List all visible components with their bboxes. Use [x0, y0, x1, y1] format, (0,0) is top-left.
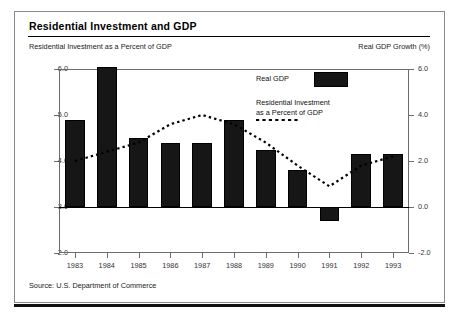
- y-tick-label-right: -2.0: [418, 248, 431, 257]
- x-tick: [266, 253, 267, 258]
- x-tick: [393, 253, 394, 258]
- x-tick-label: 1986: [162, 261, 178, 270]
- x-tick-label: 1990: [290, 261, 306, 270]
- y-tick-right: [409, 253, 414, 254]
- x-tick: [329, 253, 330, 258]
- x-tick-label: 1988: [226, 261, 242, 270]
- x-tick: [139, 253, 140, 258]
- y-tick-right: [409, 161, 414, 162]
- right-axis-label: Real GDP Growth (%): [358, 42, 430, 51]
- bar: [65, 120, 85, 207]
- bar: [129, 138, 149, 207]
- plot-area: [59, 69, 409, 253]
- x-tick-label: 1987: [194, 261, 210, 270]
- bar: [224, 120, 244, 207]
- bar: [320, 207, 340, 221]
- x-tick: [202, 253, 203, 258]
- y-tick-label-right: 6.0: [418, 64, 428, 73]
- chart-page: Residential Investment and GDP Residenti…: [0, 0, 459, 316]
- bar: [351, 154, 371, 207]
- page-title: Residential Investment and GDP: [29, 20, 197, 32]
- x-tick: [361, 253, 362, 258]
- x-tick: [170, 253, 171, 258]
- legend-row-bar: Real GDP: [256, 72, 380, 88]
- legend-label-residential-investment: Residential Investment as a Percent of G…: [256, 98, 330, 117]
- y-tick-right: [409, 69, 414, 70]
- bar: [161, 143, 181, 207]
- x-tick: [298, 253, 299, 258]
- x-tick-label: 1993: [385, 261, 401, 270]
- x-tick-label: 1984: [99, 261, 115, 270]
- x-tick-label: 1985: [130, 261, 146, 270]
- x-tick-label: 1991: [321, 261, 337, 270]
- left-axis-label: Residential Investment as a Percent of G…: [29, 42, 172, 51]
- legend-dash-residential-investment: [256, 119, 300, 121]
- y-tick-right: [409, 115, 414, 116]
- title-divider: [28, 36, 430, 37]
- y-tick-label-right: 0.0: [418, 202, 428, 211]
- legend-label-real-gdp: Real GDP: [256, 74, 289, 83]
- legend: Real GDP Residential Investment as a Per…: [256, 72, 380, 88]
- source-note: Source: U.S. Department of Commerce: [29, 281, 156, 290]
- bar: [288, 170, 308, 207]
- y-tick-right: [409, 207, 414, 208]
- x-tick: [234, 253, 235, 258]
- bottom-rule: [14, 304, 445, 307]
- x-tick: [75, 253, 76, 258]
- x-tick: [107, 253, 108, 258]
- y-tick-label-right: 4.0: [418, 110, 428, 119]
- x-tick-label: 1989: [258, 261, 274, 270]
- bar: [256, 150, 276, 208]
- bar: [383, 154, 403, 207]
- bar: [97, 67, 117, 207]
- zero-baseline: [59, 207, 409, 208]
- legend-swatch-real-gdp: [314, 72, 348, 87]
- x-tick-label: 1983: [67, 261, 83, 270]
- x-tick-label: 1992: [353, 261, 369, 270]
- bar: [192, 143, 212, 207]
- y-tick-label-right: 2.0: [418, 156, 428, 165]
